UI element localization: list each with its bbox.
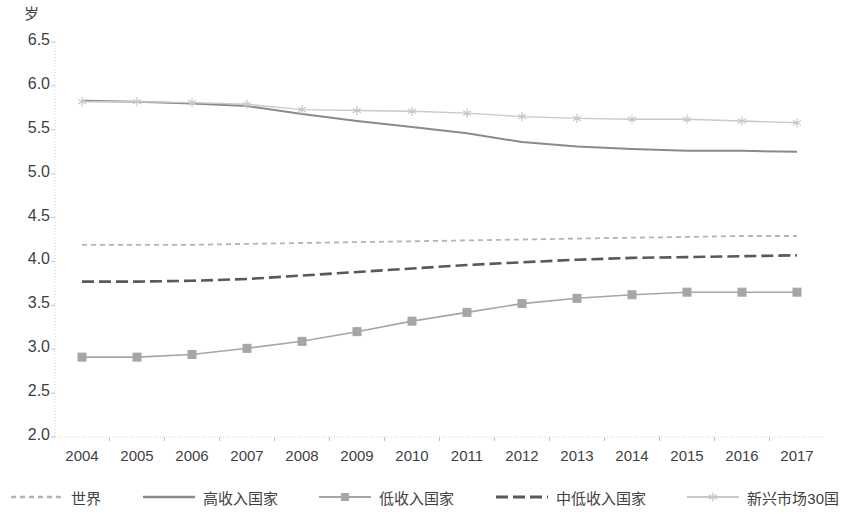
y-axis-tick-label: 2.5 bbox=[6, 382, 50, 400]
legend-label: 低收入国家 bbox=[379, 487, 454, 508]
x-axis-tick-label: 2014 bbox=[605, 447, 659, 464]
x-axis-tick-label: 2008 bbox=[275, 447, 329, 464]
legend-label: 中低收入国家 bbox=[556, 487, 646, 508]
legend-item-1[interactable]: 高收入国家 bbox=[142, 487, 278, 508]
series-marker bbox=[408, 317, 416, 325]
legend-marker bbox=[341, 493, 349, 501]
long-dashed-line-icon bbox=[495, 490, 549, 504]
x-axis-tick-label: 2012 bbox=[495, 447, 549, 464]
series-marker bbox=[793, 288, 801, 296]
legend-label: 高收入国家 bbox=[203, 487, 278, 508]
x-axis-tick-label: 2016 bbox=[715, 447, 769, 464]
series-marker bbox=[463, 308, 471, 316]
series-0 bbox=[82, 236, 797, 245]
chart-series bbox=[78, 97, 801, 361]
solid-line-icon bbox=[142, 490, 196, 504]
legend-label: 新兴市场30国 bbox=[747, 487, 839, 508]
series-marker bbox=[188, 350, 196, 358]
y-axis-tick-label: 5.5 bbox=[6, 119, 50, 137]
x-axis-tick-label: 2005 bbox=[110, 447, 164, 464]
line-chart: 岁 6.56.05.55.04.54.03.53.02.52.0 2004200… bbox=[0, 0, 849, 514]
x-axis-tick-label: 2017 bbox=[770, 447, 824, 464]
plot-area bbox=[0, 0, 849, 514]
series-line bbox=[82, 236, 797, 245]
series-marker bbox=[573, 294, 581, 302]
series-marker bbox=[78, 353, 86, 361]
x-axis-tick-label: 2006 bbox=[165, 447, 219, 464]
x-axis-tick-label: 2004 bbox=[55, 447, 109, 464]
x-axis-tick-label: 2011 bbox=[440, 447, 494, 464]
series-2 bbox=[78, 288, 801, 361]
x-axis-tick-label: 2013 bbox=[550, 447, 604, 464]
legend-label: 世界 bbox=[71, 487, 101, 508]
y-axis-tick-label: 3.0 bbox=[6, 338, 50, 356]
series-marker bbox=[683, 288, 691, 296]
y-axis-tick-label: 6.0 bbox=[6, 75, 50, 93]
series-marker bbox=[298, 337, 306, 345]
series-marker bbox=[353, 328, 361, 336]
dashed-line-icon bbox=[10, 490, 64, 504]
x-axis-tick-label: 2007 bbox=[220, 447, 274, 464]
series-marker bbox=[518, 300, 526, 308]
x-axis-tick-label: 2009 bbox=[330, 447, 384, 464]
legend-item-3[interactable]: 中低收入国家 bbox=[495, 487, 646, 508]
legend-item-2[interactable]: 低收入国家 bbox=[318, 487, 454, 508]
y-axis-tick-label: 4.5 bbox=[6, 207, 50, 225]
series-marker bbox=[133, 353, 141, 361]
x-axis-tick-label: 2015 bbox=[660, 447, 714, 464]
y-axis-tick-label: 6.5 bbox=[6, 31, 50, 49]
series-3 bbox=[82, 255, 797, 281]
series-marker bbox=[243, 344, 251, 352]
legend-item-0[interactable]: 世界 bbox=[10, 487, 101, 508]
series-4 bbox=[78, 97, 801, 127]
series-marker bbox=[738, 288, 746, 296]
y-axis-tick-label: 4.0 bbox=[6, 250, 50, 268]
y-axis-tick-label: 5.0 bbox=[6, 163, 50, 181]
chart-legend: 世界高收入国家低收入国家中低收入国家新兴市场30国 bbox=[0, 482, 849, 512]
series-1 bbox=[82, 101, 797, 152]
y-axis-tick-label: 3.5 bbox=[6, 294, 50, 312]
y-axis-tick-label: 2.0 bbox=[6, 426, 50, 444]
legend-item-4[interactable]: 新兴市场30国 bbox=[686, 487, 839, 508]
series-line bbox=[82, 101, 797, 152]
x-axis-tick-label: 2010 bbox=[385, 447, 439, 464]
series-line bbox=[82, 292, 797, 357]
square-marker-line-icon bbox=[318, 490, 372, 504]
series-marker bbox=[628, 291, 636, 299]
series-line bbox=[82, 255, 797, 281]
star-marker-line-icon bbox=[686, 490, 740, 504]
